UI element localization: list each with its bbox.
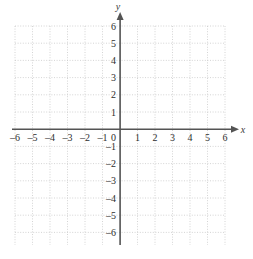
y-tick-label: 6 xyxy=(111,21,116,32)
x-tick-label: –2 xyxy=(79,132,90,143)
y-tick-label: –6 xyxy=(105,227,116,238)
y-axis-label: y xyxy=(115,1,121,12)
y-axis-arrowhead xyxy=(117,12,124,20)
y-tick-label: 1 xyxy=(111,107,116,118)
x-axis-positive-tick-labels: 1 2 3 4 5 6 xyxy=(135,132,228,143)
x-tick-label: –3 xyxy=(62,132,73,143)
y-tick-label: –3 xyxy=(105,175,116,186)
y-axis-negative-tick-labels: –1 –2 –3 –4 –5 –6 xyxy=(105,141,116,238)
x-tick-label: 5 xyxy=(205,132,210,143)
y-axis-positive-tick-labels: 6 5 4 3 2 1 xyxy=(111,21,116,118)
y-tick-label: 5 xyxy=(111,38,116,49)
x-axis-negative-tick-labels: –6 –5 –4 –3 –2 –1 xyxy=(9,132,108,143)
y-tick-label: 4 xyxy=(111,55,116,66)
y-tick-label: 3 xyxy=(111,72,116,83)
x-tick-label: –6 xyxy=(9,132,20,143)
x-tick-label: –5 xyxy=(27,132,38,143)
x-tick-label: 6 xyxy=(223,132,228,143)
x-tick-label: 3 xyxy=(170,132,175,143)
x-tick-label: 4 xyxy=(188,132,193,143)
y-tick-label: –4 xyxy=(105,193,116,204)
x-tick-label: 2 xyxy=(153,132,158,143)
x-tick-label: 1 xyxy=(135,132,140,143)
y-tick-label: –2 xyxy=(105,158,116,169)
coordinate-grid-figure: x y 0 –6 –5 –4 –3 –2 –1 1 2 3 4 5 6 6 5 … xyxy=(0,0,253,259)
x-tick-label: –4 xyxy=(44,132,55,143)
coordinate-plane: x y 0 –6 –5 –4 –3 –2 –1 1 2 3 4 5 6 6 5 … xyxy=(0,0,253,259)
x-axis-label: x xyxy=(240,124,246,135)
y-tick-label: 2 xyxy=(111,89,116,100)
y-tick-label: –5 xyxy=(105,210,116,221)
y-tick-label: –1 xyxy=(105,141,116,152)
x-axis-arrowhead xyxy=(231,126,239,133)
